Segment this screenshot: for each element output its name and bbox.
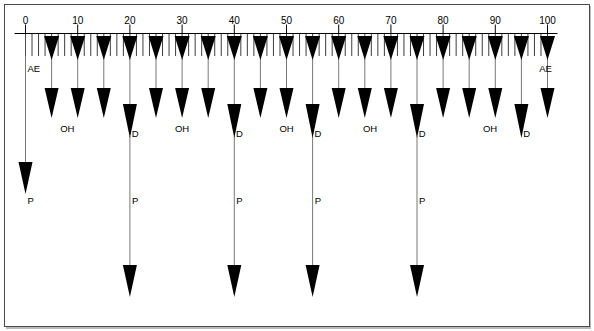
annotation-oh-10: OH: [483, 124, 497, 134]
annotation-oh-2: OH: [60, 124, 74, 134]
annotation-p-15: P: [315, 196, 321, 206]
axis-tick-label-90: 90: [490, 16, 501, 26]
axis-tick-label-10: 10: [72, 16, 83, 26]
annotation-p-13: P: [132, 196, 138, 206]
axis-tick-label-50: 50: [281, 16, 292, 26]
axis-tick-label-30: 30: [177, 16, 188, 26]
axis-tick-label-20: 20: [124, 16, 135, 26]
annotation-ae-1: AE: [539, 64, 552, 74]
annotation-d-3: D: [132, 129, 139, 139]
axis-tick-label-80: 80: [438, 16, 449, 26]
annotation-p-16: P: [419, 196, 425, 206]
annotation-oh-8: OH: [363, 124, 377, 134]
annotation-oh-6: OH: [279, 124, 293, 134]
annotation-ae-0: AE: [28, 64, 41, 74]
annotation-oh-4: OH: [175, 124, 189, 134]
axis-tick-label-60: 60: [333, 16, 344, 26]
axis-tick-label-40: 40: [229, 16, 240, 26]
annotation-d-7: D: [314, 129, 321, 139]
annotation-p-12: P: [28, 196, 34, 206]
figure-root: 0102030405060708090100AEAEOHDOHDOHDOHDOH…: [0, 0, 594, 331]
axis-tick-label-70: 70: [385, 16, 396, 26]
arrow-stems-group: [26, 35, 548, 267]
annotation-d-9: D: [419, 129, 426, 139]
annotation-d-5: D: [236, 129, 243, 139]
axis-tick-label-0: 0: [23, 16, 29, 26]
annotation-p-14: P: [236, 196, 242, 206]
annotation-d-11: D: [523, 129, 530, 139]
timeline-diagram-canvas: [0, 0, 594, 331]
axis-tick-label-100: 100: [539, 16, 556, 26]
